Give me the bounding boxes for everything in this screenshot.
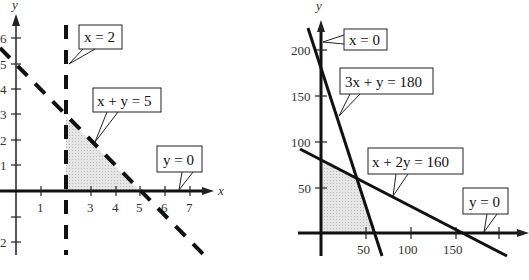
- left-y-tick-6: 6: [0, 31, 7, 46]
- left-y-tick-2: 2: [0, 133, 7, 148]
- callout-x-eq-0-text: x = 0: [349, 32, 380, 48]
- left-x-tick-7: 7: [186, 200, 193, 215]
- right-y-tick-200: 200: [291, 43, 311, 58]
- left-y-axis-label: y: [10, 0, 18, 12]
- right-x-tick-50: 50: [357, 242, 370, 257]
- left-x-tick-4: 4: [112, 200, 119, 215]
- right-feasible-region: [321, 160, 375, 233]
- left-x-tick-3: 3: [87, 200, 94, 215]
- left-x-axis-label: x: [217, 183, 224, 198]
- left-y-tick-neg2: 2: [0, 235, 7, 250]
- callout-x-plus-y-eq-5: x + y = 5: [93, 88, 161, 142]
- callout-x-eq-2-text: x = 2: [84, 29, 115, 45]
- diagram-canvas: y x 1 3 4 5 6 7 6: [0, 0, 529, 280]
- callout-x-plus-y-eq-5-text: x + y = 5: [97, 93, 151, 109]
- callout-3x-plus-y-eq-180-text: 3x + y = 180: [345, 74, 422, 90]
- left-y-axis-arrow-icon: [12, 14, 20, 26]
- right-y-tick-150: 150: [291, 89, 311, 104]
- left-x-tick-5: 5: [136, 200, 143, 215]
- callout-x-eq-2: x = 2: [69, 25, 122, 64]
- left-x-tick-1: 1: [37, 200, 44, 215]
- left-x-axis-arrow-icon: [202, 187, 214, 195]
- left-graph: y x 1 3 4 5 6 7 6: [0, 0, 224, 256]
- callout-y-eq-0-right: y = 0: [463, 188, 508, 232]
- callout-x-plus-2y-eq-160-text: x + 2y = 160: [372, 154, 449, 170]
- callout-x-eq-0: x = 0: [323, 29, 387, 50]
- left-y-tick-1: 1: [0, 158, 7, 173]
- left-y-tick-4: 4: [0, 82, 7, 97]
- callout-y-eq-0-left: y = 0: [157, 146, 202, 190]
- right-y-axis-arrow-icon: [317, 20, 325, 32]
- callout-y-eq-0-right-text: y = 0: [469, 194, 500, 210]
- right-x-tick-100: 100: [398, 242, 418, 257]
- left-y-tick-3: 3: [0, 107, 7, 122]
- left-y-tick-5: 5: [0, 57, 7, 72]
- callout-x-plus-2y-eq-160: x + 2y = 160: [368, 148, 463, 196]
- right-x-axis-arrow-icon: [517, 229, 529, 237]
- right-graph: y 50 100 150 200 150 100 50: [291, 0, 529, 257]
- right-x-tick-150: 150: [443, 242, 463, 257]
- right-y-axis-label: y: [314, 0, 322, 13]
- callout-3x-plus-y-eq-180: 3x + y = 180: [339, 68, 433, 116]
- callout-y-eq-0-left-text: y = 0: [163, 152, 194, 168]
- right-y-tick-50: 50: [298, 181, 311, 196]
